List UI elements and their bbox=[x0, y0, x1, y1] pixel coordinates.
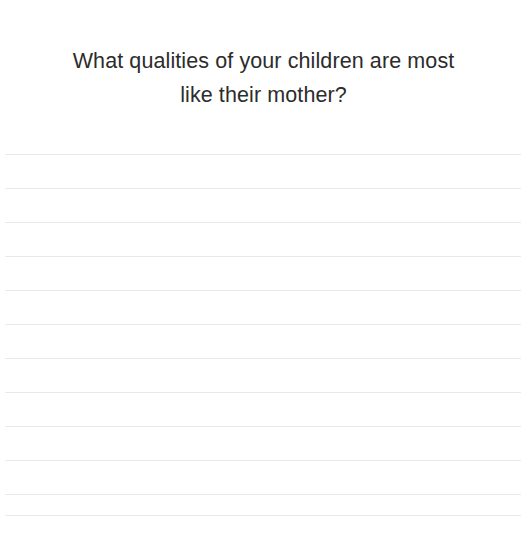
journal-page: What qualities of your children are most… bbox=[0, 0, 527, 544]
writing-rule-line bbox=[5, 358, 521, 359]
writing-rule-line bbox=[5, 426, 521, 427]
writing-rule-line bbox=[5, 494, 521, 495]
writing-rule-line bbox=[5, 515, 521, 516]
writing-rule-line bbox=[5, 392, 521, 393]
writing-rule-line bbox=[5, 290, 521, 291]
lined-writing-area bbox=[0, 0, 527, 544]
writing-rule-line bbox=[5, 222, 521, 223]
writing-rule-line bbox=[5, 256, 521, 257]
writing-rule-line bbox=[5, 188, 521, 189]
writing-rule-line bbox=[5, 460, 521, 461]
writing-rule-line bbox=[5, 324, 521, 325]
writing-rule-line bbox=[5, 154, 521, 155]
